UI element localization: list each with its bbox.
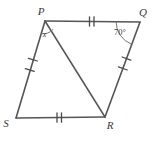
segment-pq <box>45 21 140 22</box>
angle-label-x: x <box>42 30 47 39</box>
angle-label-70-degrees: 70° <box>114 27 126 37</box>
geometry-figure-container: x 70° P Q R S <box>0 0 156 146</box>
vertex-label-q: Q <box>139 6 147 18</box>
segment-sr <box>16 117 105 118</box>
segment-pr-diagonal <box>45 21 105 117</box>
geometry-diagram: x 70° P Q R S <box>0 0 156 146</box>
vertex-label-p: P <box>37 5 45 17</box>
vertex-label-r: R <box>106 119 114 131</box>
vertex-label-s: S <box>3 117 9 129</box>
